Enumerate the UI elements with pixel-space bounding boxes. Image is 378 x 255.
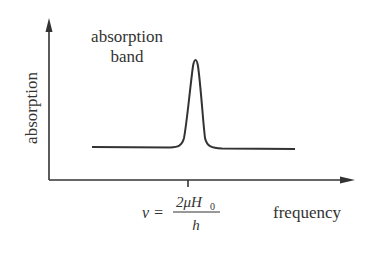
tick-label-lhs: ν = — [142, 204, 164, 221]
tick-label-subscript: 0 — [210, 201, 215, 212]
x-axis-arrow-icon — [340, 177, 355, 184]
absorption-curve — [92, 60, 295, 149]
tick-label-numerator: 2μH — [176, 194, 203, 210]
x-axis-label: frequency — [273, 203, 341, 222]
absorption-diagram: absorption absorption band ν = 2μH 0 h f… — [0, 0, 378, 255]
annotation-line-1: absorption — [91, 27, 163, 46]
y-axis-label: absorption — [22, 72, 41, 144]
tick-label-denominator: h — [192, 217, 200, 233]
annotation-line-2: band — [110, 47, 144, 66]
y-axis-arrow-icon — [46, 18, 53, 32]
